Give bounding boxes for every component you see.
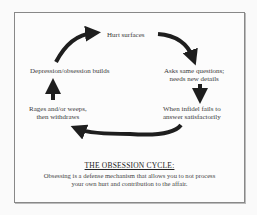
node-label: Depression/obsession builds bbox=[30, 67, 110, 75]
node-label-line: When infidel fails to bbox=[163, 105, 221, 113]
node-depression-builds: Depression/obsession builds bbox=[30, 67, 110, 75]
node-label-line: Rages and/or weeps, bbox=[29, 105, 87, 113]
arrow-hurt-to-asks bbox=[158, 34, 193, 58]
diagram-title: THE OBSESSION CYCLE: bbox=[14, 161, 245, 170]
arrow-depression-to-hurt bbox=[56, 33, 93, 62]
node-hurt-surfaces: Hurt surfaces bbox=[107, 31, 145, 39]
caption-line: Obsessing is a defense mechanism that al… bbox=[14, 172, 245, 180]
diagram-caption: Obsessing is a defense mechanism that al… bbox=[14, 172, 245, 188]
node-asks-same-questions: Asks same questions; needs new details bbox=[164, 67, 224, 83]
node-label-line: answer satisfactorily bbox=[163, 113, 221, 121]
node-rages-weeps: Rages and/or weeps, then withdraws bbox=[29, 105, 87, 121]
node-label-line: Asks same questions; bbox=[164, 67, 224, 75]
caption-line: your own hurt and contribution to the af… bbox=[14, 180, 245, 188]
node-label-line: needs new details bbox=[164, 75, 224, 83]
node-label: Hurt surfaces bbox=[107, 31, 145, 39]
node-infidel-fails: When infidel fails to answer satisfactor… bbox=[163, 105, 221, 121]
node-label-line: then withdraws bbox=[29, 113, 87, 121]
arrow-fails-to-rages bbox=[78, 125, 181, 135]
